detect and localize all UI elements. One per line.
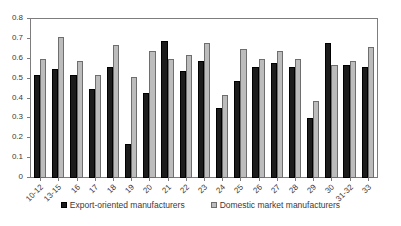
bar: [95, 75, 101, 178]
bar-group: [343, 19, 355, 178]
x-tick-mark: [368, 178, 369, 181]
x-tick-mark: [168, 178, 169, 181]
bar: [277, 51, 283, 178]
legend-swatch-icon: [211, 202, 217, 208]
bar-group: [271, 19, 283, 178]
x-tick-mark: [77, 178, 78, 181]
bar: [77, 61, 83, 178]
bar: [368, 47, 374, 178]
bar: [222, 95, 228, 178]
y-tick-label: 0.5: [12, 74, 23, 82]
bar: [58, 37, 64, 178]
bar-group: [307, 19, 319, 178]
bar: [149, 51, 155, 178]
x-tick-mark: [331, 178, 332, 181]
x-tick-mark: [240, 178, 241, 181]
bar-group: [125, 19, 137, 178]
y-axis: 00.10.20.30.40.50.60.70.8: [0, 18, 27, 178]
x-tick-mark: [313, 178, 314, 181]
bar-group: [34, 19, 46, 178]
bar-group: [107, 19, 119, 178]
bar: [331, 65, 337, 178]
y-tick-label: 0.2: [12, 133, 23, 141]
bar-group: [161, 19, 173, 178]
bar: [131, 77, 137, 178]
legend-entry[interactable]: Domestic market manufacturers: [211, 201, 340, 210]
x-tick-mark: [204, 178, 205, 181]
y-tick-label: 0.7: [12, 34, 23, 42]
x-tick-label: 33: [368, 178, 381, 191]
bar-group: [180, 19, 192, 178]
bar-group: [252, 19, 264, 178]
bar: [204, 43, 210, 178]
x-tick-mark: [149, 178, 150, 181]
x-tick-mark: [95, 178, 96, 181]
bar-group: [325, 19, 337, 178]
bar: [186, 55, 192, 178]
bar: [240, 49, 246, 178]
x-tick-mark: [295, 178, 296, 181]
y-tick-label: 0.8: [12, 14, 23, 22]
bars-layer: [31, 19, 377, 178]
x-tick-mark: [350, 178, 351, 181]
x-tick-mark: [222, 178, 223, 181]
y-tick-mark: [27, 98, 30, 99]
y-tick-mark: [27, 78, 30, 79]
y-tick-mark: [27, 157, 30, 158]
bar-group: [70, 19, 82, 178]
x-tick-mark: [186, 178, 187, 181]
bar-group: [216, 19, 228, 178]
bar: [40, 59, 46, 178]
legend-label: Export-oriented manufacturers: [70, 201, 185, 210]
bar-group: [289, 19, 301, 178]
x-tick-mark: [40, 178, 41, 181]
legend-swatch-icon: [61, 202, 67, 208]
x-tick-mark: [131, 178, 132, 181]
bar-group: [362, 19, 374, 178]
y-tick-mark: [27, 38, 30, 39]
x-tick-mark: [113, 178, 114, 181]
x-tick-mark: [58, 178, 59, 181]
bar-group: [198, 19, 210, 178]
bar: [259, 59, 265, 178]
y-tick-label: 0.1: [12, 153, 23, 161]
bar-group: [143, 19, 155, 178]
bar: [295, 59, 301, 178]
bar-group: [234, 19, 246, 178]
y-tick-mark: [27, 117, 30, 118]
y-tick-label: 0.6: [12, 54, 23, 62]
bar-group: [52, 19, 64, 178]
bar: [113, 45, 119, 178]
y-tick-mark: [27, 18, 30, 19]
bar: [313, 101, 319, 179]
bar: [350, 61, 356, 178]
bar-chart: 00.10.20.30.40.50.60.70.8 10-1213-151617…: [0, 0, 401, 226]
y-tick-mark: [27, 58, 30, 59]
y-tick-label: 0.3: [12, 113, 23, 121]
x-tick-mark: [277, 178, 278, 181]
bar: [168, 59, 174, 178]
bar-group: [89, 19, 101, 178]
legend-label: Domestic market manufacturers: [220, 201, 340, 210]
legend-entry[interactable]: Export-oriented manufacturers: [61, 201, 185, 210]
y-tick-label: 0.4: [12, 94, 23, 102]
y-tick-mark: [27, 137, 30, 138]
x-tick-mark: [259, 178, 260, 181]
